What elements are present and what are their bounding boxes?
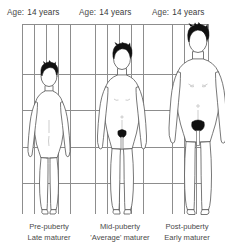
caption-stage-2: Mid-puberty bbox=[100, 222, 140, 231]
caption-mid-puberty: Mid-puberty 'Average' maturer bbox=[82, 222, 158, 243]
pubic-hair-mid-puberty bbox=[118, 130, 127, 138]
diagram-canvas: Age:14 years Age:14 years Age:14 years bbox=[0, 0, 225, 250]
caption-stage-1: Pre-puberty bbox=[29, 222, 69, 231]
caption-stage-3: Post-puberty bbox=[165, 222, 208, 231]
pubic-hair-post-puberty bbox=[192, 120, 205, 131]
figure-pre-puberty bbox=[23, 60, 75, 215]
caption-maturer-1: Late maturer bbox=[14, 233, 84, 244]
caption-maturer-2: 'Average' maturer bbox=[82, 233, 158, 244]
figure-post-puberty bbox=[168, 24, 225, 215]
caption-post-puberty: Post-puberty Early maturer bbox=[152, 222, 222, 243]
figure-mid-puberty bbox=[94, 42, 150, 215]
caption-maturer-3: Early maturer bbox=[152, 233, 222, 244]
caption-pre-puberty: Pre-puberty Late maturer bbox=[14, 222, 84, 243]
